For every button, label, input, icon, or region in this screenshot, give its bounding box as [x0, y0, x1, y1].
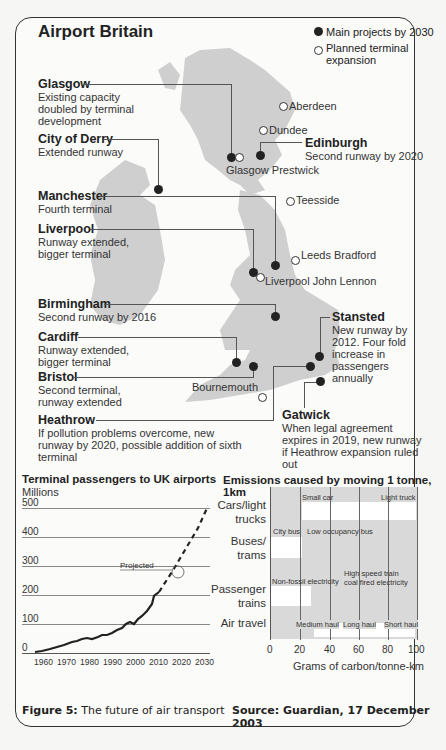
x-tick-60: 60	[353, 644, 364, 655]
legend-main-label: Main projects by 2030	[326, 26, 434, 38]
label-short-haul: Short haul	[384, 620, 418, 629]
label-edinburgh: Edinburgh Second runway by 2020	[305, 136, 425, 162]
x-tick-80: 80	[382, 644, 393, 655]
bristol-dot-icon	[249, 362, 258, 371]
figure-caption: Figure 5: The future of air transport	[22, 704, 225, 717]
label-long-haul: Long haul	[343, 620, 376, 629]
emissions-xlabel: Grams of carbon/tonne-km	[293, 660, 424, 672]
heathrow-dot-icon	[306, 362, 315, 371]
legend-planned-label: Planned terminal expansion	[326, 42, 426, 66]
leeds-bradford-dot-icon	[291, 256, 300, 265]
legend-main-dot-icon	[314, 27, 323, 36]
label-bournemouth: Bournemouth	[192, 381, 258, 393]
manchester-dot-icon	[271, 261, 280, 270]
label-liverpool-john-lennon: Liverpool John Lennon	[265, 275, 376, 287]
label-dundee: Dundee	[269, 124, 308, 136]
legend-planned-dot-icon	[314, 46, 323, 55]
row-label-air: Air travel	[206, 616, 266, 630]
passengers-line	[22, 500, 212, 660]
label-light-truck: Light truck	[381, 493, 416, 502]
label-high-speed-train: High speed train coal fired electricity	[344, 569, 414, 587]
aberdeen-dot-icon	[279, 102, 288, 111]
teesside-dot-icon	[286, 197, 295, 206]
label-bristol: Bristol Second terminal, runway extended	[38, 370, 138, 408]
label-glasgow-prestwick: Glasgow Prestwick	[226, 164, 319, 176]
cardiff-dot-icon	[232, 358, 241, 367]
label-manchester: Manchester Fourth terminal	[38, 189, 178, 215]
label-small-car: Small car	[302, 493, 333, 502]
x-tick-100: 100	[408, 644, 425, 655]
projected-annotation: Projected	[120, 561, 154, 570]
birmingham-dot-icon	[271, 312, 280, 321]
bar-trains	[271, 586, 311, 606]
stansted-dot-icon	[315, 352, 324, 361]
row-label-cars: Cars/light trucks	[206, 498, 266, 526]
label-birmingham: Birmingham Second runway by 2016	[38, 297, 178, 323]
label-gatwick: Gatwick When legal agreement expires in …	[282, 408, 422, 470]
row-label-trains: Passenger trains	[206, 582, 266, 610]
label-low-occupancy-bus: Low occupancy bus	[307, 527, 373, 536]
map-title: Airport Britain	[38, 22, 153, 42]
label-medium-haul: Medium haul	[296, 620, 339, 629]
label-non-fossil: Non-fossil electricity	[272, 577, 339, 586]
x-tick-0: 0	[267, 644, 273, 655]
dundee-dot-icon	[259, 126, 268, 135]
glasgow-prestwick-dot-icon	[235, 153, 244, 162]
x-tick-20: 20	[294, 644, 305, 655]
bar-buses	[271, 537, 302, 558]
passengers-chart-title: Terminal passengers to UK airports	[22, 473, 216, 485]
label-teesside: Teesside	[296, 194, 339, 206]
x-tick-40: 40	[324, 644, 335, 655]
liverpool-john-lennon-dot-icon	[256, 273, 265, 282]
edinburgh-dot-icon	[256, 151, 265, 160]
label-liverpool: Liverpool Runway extended, bigger termin…	[38, 222, 138, 260]
passengers-x-axis: 1960 1970 1980 1990 2000 2010 2020 2030	[34, 657, 214, 667]
label-stansted: Stansted New runway by 2012. Four fold i…	[332, 310, 424, 384]
label-city-of-derry: City of Derry Extended runway	[38, 132, 158, 158]
label-aberdeen: Aberdeen	[289, 100, 337, 112]
label-city-bus: City bus	[273, 527, 300, 536]
source-caption: Source: Guardian, 17 December 2003	[232, 704, 446, 730]
label-cardiff: Cardiff Runway extended, bigger terminal	[38, 330, 158, 368]
bournemouth-dot-icon	[258, 393, 267, 402]
gatwick-dot-icon	[316, 377, 325, 386]
label-leeds-bradford: Leeds Bradford	[301, 249, 376, 261]
row-label-buses: Buses/ trams	[206, 534, 266, 562]
